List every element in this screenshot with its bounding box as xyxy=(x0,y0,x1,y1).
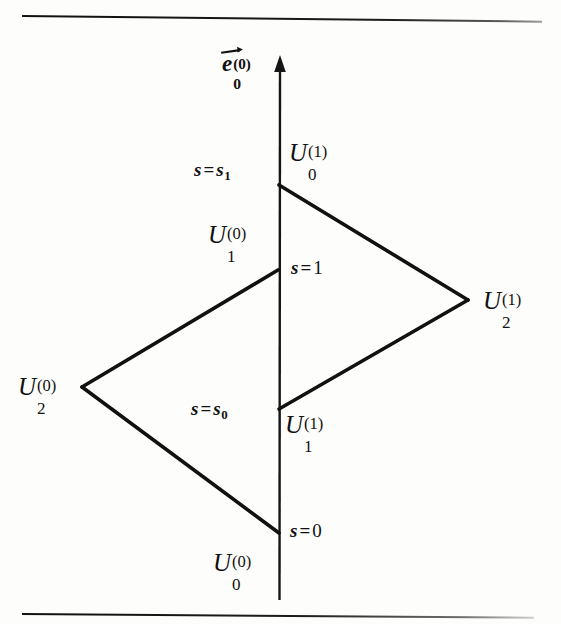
edge-U2-1-to-U1-1 xyxy=(279,300,468,409)
parameter-lhs: s xyxy=(290,520,297,541)
edge-U2-0-to-U0-0 xyxy=(82,387,279,533)
axis-label-subscript: 0 xyxy=(233,76,241,92)
vector-arrow-icon: e xyxy=(222,52,232,75)
vertex-label-subscript: 1 xyxy=(304,438,313,455)
vertex-label-superscript: (0) xyxy=(232,554,251,571)
figure-root: e (0)0 U(1)0 s=s1 U(0)1 s=1 U(1)2 U(0)2 … xyxy=(0,0,561,624)
vertex-label-base: U xyxy=(18,373,36,400)
axis-label-base: e xyxy=(222,51,232,76)
parameter-lhs: s xyxy=(291,257,298,278)
vertex-label-U0-1: U(1)0 xyxy=(289,140,307,165)
vertex-label-subscript: 0 xyxy=(232,576,241,593)
vertex-label-superscript: (1) xyxy=(304,416,323,433)
vertex-label-base: U xyxy=(213,549,231,576)
vertex-label-subscript: 1 xyxy=(227,248,236,265)
vertex-label-subscript: 2 xyxy=(502,314,511,331)
parameter-rhs: s xyxy=(216,159,223,180)
parameter-label-s-0: s=0 xyxy=(290,521,322,540)
diagram-canvas xyxy=(0,0,561,624)
vertex-label-U2-0: U(0)2 xyxy=(18,374,36,399)
edge-U0-1-to-U2-1 xyxy=(279,185,468,300)
vertex-label-superscript: (0) xyxy=(227,226,246,243)
vertex-label-base: U xyxy=(285,411,303,438)
vertex-label-superscript: (1) xyxy=(502,292,521,309)
parameter-equals: = xyxy=(299,520,310,541)
vertex-label-base: U xyxy=(289,139,307,166)
parameter-equals: = xyxy=(200,398,211,419)
parameter-rhs: s xyxy=(213,398,220,419)
axis-arrowhead-icon xyxy=(274,55,286,72)
vertex-label-U0-0: U(0)0 xyxy=(213,550,231,575)
parameter-equals: = xyxy=(300,257,311,278)
vertex-label-subscript: 0 xyxy=(308,166,317,183)
vertex-label-superscript: (0) xyxy=(37,378,56,395)
parameter-lhs: s xyxy=(191,398,198,419)
vertex-label-base: U xyxy=(208,221,226,248)
parameter-rhs-subscript: 0 xyxy=(221,407,227,422)
axis-label-e0: e (0)0 xyxy=(222,52,232,75)
vertex-label-base: U xyxy=(483,287,501,314)
vertex-label-U1-1: U(1)1 xyxy=(285,412,303,437)
parameter-label-s-s1: s=s1 xyxy=(194,160,231,183)
vertex-label-U2-1: U(1)2 xyxy=(483,288,501,313)
edge-U1-0-to-U2-0 xyxy=(82,270,278,387)
parameter-label-s-1: s=1 xyxy=(291,258,323,277)
parameter-rhs-subscript: 1 xyxy=(224,168,230,183)
vertical-axis-line xyxy=(280,66,281,600)
parameter-rhs: 0 xyxy=(312,520,322,541)
vertex-label-subscript: 2 xyxy=(37,400,46,417)
vertex-label-U1-0: U(0)1 xyxy=(208,222,226,247)
parameter-rhs: 1 xyxy=(313,257,323,278)
axis-label-superscript: (0) xyxy=(233,56,251,71)
parameter-label-s-s0: s=s0 xyxy=(191,399,228,422)
parameter-lhs: s xyxy=(194,159,201,180)
vertex-label-superscript: (1) xyxy=(308,144,327,161)
parameter-equals: = xyxy=(203,159,214,180)
